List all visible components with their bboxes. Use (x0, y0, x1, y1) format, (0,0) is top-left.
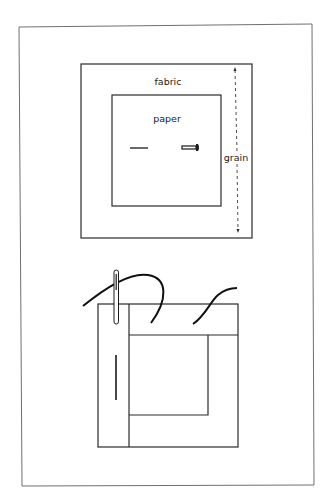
log-cabin-block (98, 304, 238, 447)
fabric-label: fabric (155, 76, 182, 87)
grain-arrow (234, 67, 240, 233)
thread-right (193, 288, 237, 324)
needle-icon (114, 270, 119, 324)
paper-square (112, 95, 221, 206)
diagram-canvas: fabric paper grain (0, 0, 324, 498)
arrow-up-icon (234, 67, 237, 71)
arrow-down-icon (237, 229, 240, 233)
thread-left (83, 275, 163, 323)
pin-icon (182, 144, 199, 151)
fabric-square (81, 64, 252, 238)
paper-label: paper (153, 113, 181, 124)
grain-label: grain (224, 152, 248, 163)
outer-frame (19, 24, 314, 486)
top-figure: fabric paper grain (81, 64, 252, 238)
bottom-figure (83, 270, 238, 447)
inner-square (129, 335, 208, 415)
